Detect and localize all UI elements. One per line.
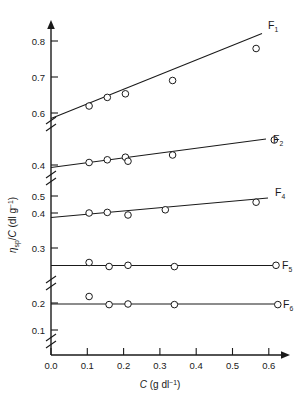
series-label-f4: F4	[275, 186, 285, 200]
y-tick-labels-upper: 0.8 0.7 0.6	[32, 36, 45, 119]
data-point	[275, 301, 282, 308]
x-tick-label: 0.5	[226, 360, 239, 371]
y-tick-label: 0.5	[32, 191, 45, 202]
x-axis-arrow-icon	[281, 351, 290, 359]
data-point	[125, 158, 132, 165]
x-tick-label: 0.6	[262, 360, 275, 371]
y-tick-label: 0.1	[32, 325, 45, 336]
series-label-f2: F2	[273, 133, 283, 147]
data-point	[86, 103, 93, 110]
y-tick-label: 0.7	[32, 72, 45, 83]
x-axis-title: C (g dl−1)	[140, 379, 181, 390]
y-axis-arrow-icon	[47, 20, 55, 29]
data-point	[169, 77, 176, 84]
data-point	[86, 259, 93, 266]
data-point	[169, 152, 176, 159]
series-label-f6: F6	[283, 298, 293, 312]
data-point	[106, 301, 113, 308]
data-point	[106, 263, 113, 270]
x-ticks	[51, 348, 269, 355]
data-point	[253, 199, 260, 206]
data-point	[86, 159, 93, 166]
series-f1-trendline	[51, 34, 262, 119]
data-point	[171, 301, 178, 308]
y-tick-labels-middle: 0.4 0.5	[32, 160, 45, 202]
y-title-close: )	[7, 197, 18, 200]
y-tick-label: 0.6	[32, 108, 45, 119]
series-f2: F2	[51, 133, 283, 168]
y-tick-label: 0.2	[32, 298, 45, 309]
data-point	[86, 210, 93, 217]
y-ticks-lower	[51, 213, 58, 330]
data-point	[253, 45, 260, 52]
data-point	[86, 293, 93, 300]
series-label-f1: F1	[268, 19, 278, 33]
y-axis-title: ηsp/C (dl g−1)	[7, 197, 21, 253]
data-point	[171, 263, 178, 270]
chart-canvas: 0.0 0.1 0.2 0.3 0.4 0.5 0.6 0.8 0.7 0.6 …	[0, 0, 301, 398]
y-tick-labels-lower: 0.4 0.3 0.2 0.1	[32, 208, 45, 336]
series-f2-trendline	[51, 139, 266, 168]
series-f1: F1	[51, 19, 278, 119]
series-f6: F6	[51, 293, 293, 312]
y-ticks-upper	[51, 41, 58, 113]
data-point	[125, 301, 132, 308]
y-tick-label: 0.4	[32, 208, 45, 219]
series-label-f5: F5	[282, 259, 292, 273]
x-tick-label: 0.1	[81, 360, 94, 371]
series-f4: F4	[51, 186, 285, 218]
y-tick-label: 0.8	[32, 36, 45, 47]
series-f4-trendline	[51, 198, 268, 218]
data-point	[162, 207, 169, 214]
data-point	[122, 91, 129, 98]
series-f5: F5	[51, 259, 292, 273]
y-axis	[47, 20, 55, 355]
x-title-units: (g dl	[147, 379, 169, 390]
x-tick-label: 0.0	[44, 360, 57, 371]
svg-text:C (g dl−1): C (g dl−1)	[140, 379, 181, 390]
data-point	[104, 94, 111, 101]
x-tick-labels: 0.0 0.1 0.2 0.3 0.4 0.5 0.6	[44, 360, 275, 371]
data-point	[104, 157, 111, 164]
data-point	[273, 262, 280, 269]
x-title-close: )	[177, 379, 180, 390]
data-point	[125, 262, 132, 269]
y-tick-label: 0.4	[32, 160, 45, 171]
x-tick-label: 0.3	[153, 360, 166, 371]
x-tick-label: 0.4	[190, 360, 203, 371]
x-tick-label: 0.2	[117, 360, 130, 371]
data-point	[104, 209, 111, 216]
data-point	[125, 212, 132, 219]
svg-text:ηsp/C (dl g−1): ηsp/C (dl g−1)	[7, 197, 21, 253]
y-tick-label: 0.3	[32, 243, 45, 254]
y-title-units: (dl g	[7, 208, 18, 230]
viscosity-chart-figure: 0.0 0.1 0.2 0.3 0.4 0.5 0.6 0.8 0.7 0.6 …	[0, 0, 301, 398]
